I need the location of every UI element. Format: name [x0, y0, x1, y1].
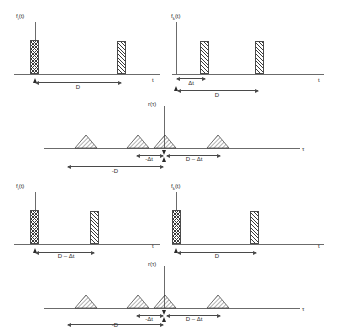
- time-axis-bottom-right: [172, 244, 324, 245]
- axis-label-top-correlation: τ: [302, 146, 304, 152]
- signal-label-bottom-right: fk(t): [171, 183, 181, 189]
- pulse-bottom-right-2: [250, 211, 259, 244]
- measure-label-D-minus-dt-bottom-left: D – Δt: [46, 253, 86, 259]
- pulse-bottom-left-1: [30, 210, 39, 244]
- signal-label-top-correlation: r(τ): [148, 101, 156, 107]
- measure-label-dt-top-right: Δt: [176, 80, 206, 86]
- pulse-top-right-1: [200, 41, 209, 74]
- measure-label-neg-dt-top: -Δt: [132, 156, 166, 162]
- measure-label-neg-D-bottom: -D: [95, 322, 135, 328]
- measure-label-D-minus-dt-bottom: D – Δt: [174, 316, 214, 322]
- pulse-top-left-1: [30, 40, 39, 74]
- time-axis-top-right: [172, 74, 324, 75]
- pulse-bottom-left-2: [90, 211, 99, 244]
- correlation-peak-2-bottom: [126, 294, 150, 309]
- measure-arrow-dt-top-right: [177, 78, 205, 79]
- measure-label-D-top-right: D: [199, 92, 235, 98]
- correlation-peak-4-top: [206, 134, 230, 149]
- vertical-axis-top-right: [176, 22, 177, 74]
- time-axis-top-left: [14, 74, 160, 75]
- measure-arrow-D-top-right: [178, 90, 258, 91]
- correlation-peak-4-bottom: [206, 294, 230, 309]
- origin-marker-lower-bottom-correlation: [162, 317, 166, 322]
- measure-arrow-D-top-left: [36, 82, 121, 83]
- axis-label-bottom-left: t: [152, 243, 154, 249]
- correlation-peak-3-top: [153, 134, 177, 149]
- time-axis-bottom-left: [14, 244, 160, 245]
- pulse-top-left-2: [117, 41, 126, 74]
- measure-label-D-minus-dt-top: D – Δt: [174, 156, 214, 162]
- correlation-peak-1-bottom: [74, 294, 98, 309]
- correlation-peak-1-top: [74, 134, 98, 149]
- axis-label-bottom-right: t: [318, 243, 320, 249]
- measure-arrow-neg-D-top: [68, 166, 163, 167]
- measure-label-D-bottom-right: D: [199, 253, 235, 259]
- correlation-peak-3-bottom: [153, 294, 177, 309]
- correlation-peak-2-top: [126, 134, 150, 149]
- axis-label-top-right: t: [318, 77, 320, 83]
- measure-label-D-top-left: D: [58, 84, 98, 90]
- pulse-bottom-right-1: [172, 210, 181, 244]
- measure-label-neg-dt-bottom: -Δt: [132, 316, 166, 322]
- signal-label-top-right: fk(t): [171, 13, 181, 19]
- axis-label-top-left: t: [152, 77, 154, 83]
- origin-marker-lower-top-correlation: [162, 157, 166, 162]
- measure-label-neg-D-top: -D: [95, 168, 135, 174]
- signal-label-bottom-left: fi(t): [16, 183, 24, 189]
- signal-label-bottom-correlation: r(τ): [148, 261, 156, 267]
- axis-label-bottom-correlation: τ: [302, 306, 304, 312]
- pulse-top-right-2: [255, 41, 264, 74]
- signal-label-top-left: fi(t): [16, 13, 24, 19]
